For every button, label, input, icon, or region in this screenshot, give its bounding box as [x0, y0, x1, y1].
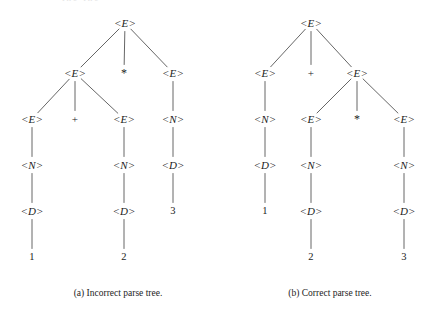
tree-node-a-d1: <D>	[161, 160, 184, 171]
tree-node-a-t1: 1	[29, 252, 34, 263]
tree-node-a-d3: <D>	[112, 206, 135, 217]
tree-node-b-e4: <E>	[393, 114, 415, 125]
tree-node-a-e1: <E>	[64, 68, 86, 79]
tree-node-b-e1: <E>	[254, 68, 276, 79]
tree-edge	[317, 79, 351, 113]
tree-node-a-e2: <E>	[162, 68, 184, 79]
tree-edge	[317, 29, 352, 66]
tree-node-b-e2: <E>	[346, 68, 368, 79]
tree-node-a-plus: +	[72, 114, 78, 125]
caption-incorrect-parse-tree: (a) Incorrect parse tree.	[74, 288, 163, 298]
tree-node-b-plus: +	[308, 68, 314, 79]
tree-node-a-t2: 2	[121, 252, 126, 263]
tree-node-b-d2: <D>	[299, 206, 322, 217]
tree-node-b-t1: 1	[262, 206, 267, 217]
tree-node-a-root: <E>	[114, 18, 136, 29]
tree-node-b-root: <E>	[300, 18, 322, 29]
tree-edge	[81, 29, 119, 67]
tree-node-a-e4: <E>	[113, 114, 135, 125]
tree-node-a-n3: <N>	[113, 160, 135, 171]
tree-node-b-d3: <D>	[392, 206, 415, 217]
tree-edge	[131, 29, 167, 67]
tree-node-b-d1: <D>	[253, 160, 276, 171]
parse-tree-figure: the the <E><E>*<E><E>+<E><N><N><N><D><D>…	[0, 0, 437, 309]
tree-node-b-t3: 3	[401, 252, 406, 263]
tree-node-a-t3: 3	[170, 206, 175, 217]
cropped-text-above-figure: the the	[0, 0, 437, 6]
tree-node-a-e3: <E>	[21, 114, 43, 125]
tree-edge	[38, 79, 69, 113]
tree-node-b-n1: <N>	[254, 114, 276, 125]
tree-node-a-n2: <N>	[21, 160, 43, 171]
tree-node-b-n3: <N>	[393, 160, 415, 171]
caption-correct-parse-tree: (b) Correct parse tree.	[288, 288, 371, 298]
tree-node-a-star: *	[121, 69, 127, 77]
tree-edge-layer	[0, 0, 437, 309]
tree-node-b-star: *	[354, 115, 360, 123]
tree-node-b-e3: <E>	[300, 114, 322, 125]
tree-edge	[124, 32, 125, 65]
tree-edge	[363, 79, 398, 113]
tree-node-a-d2: <D>	[20, 206, 43, 217]
tree-node-b-t2: 2	[308, 252, 313, 263]
tree-edge	[271, 29, 306, 66]
tree-node-a-n1: <N>	[162, 114, 184, 125]
tree-edge	[81, 79, 118, 113]
tree-node-b-n2: <N>	[300, 160, 322, 171]
